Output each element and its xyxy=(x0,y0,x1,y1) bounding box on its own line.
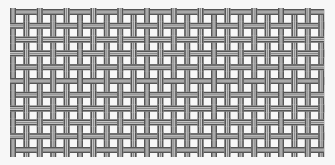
woven-mesh-image xyxy=(0,0,335,165)
